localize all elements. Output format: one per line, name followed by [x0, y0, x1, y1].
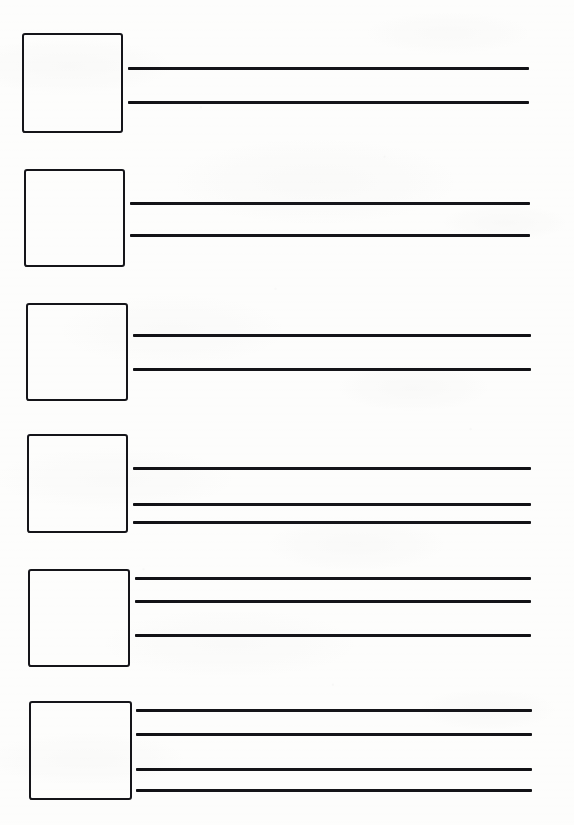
writing-line-1-2[interactable] — [128, 101, 529, 104]
answer-box-1[interactable] — [22, 33, 123, 133]
answer-box-3[interactable] — [26, 303, 128, 401]
answer-box-2[interactable] — [24, 169, 125, 267]
answer-box-4[interactable] — [27, 434, 128, 533]
writing-line-2-2[interactable] — [130, 234, 530, 237]
writing-line-3-2[interactable] — [133, 368, 531, 371]
answer-box-5[interactable] — [28, 569, 130, 667]
writing-line-6-4[interactable] — [136, 789, 532, 792]
worksheet-page — [0, 0, 574, 825]
writing-line-5-3[interactable] — [135, 634, 531, 637]
writing-line-4-2[interactable] — [133, 503, 531, 506]
answer-box-6[interactable] — [29, 701, 132, 800]
writing-line-4-3[interactable] — [133, 521, 531, 524]
writing-line-6-1[interactable] — [136, 709, 532, 712]
writing-line-5-1[interactable] — [135, 577, 531, 580]
writing-line-6-3[interactable] — [136, 768, 532, 771]
writing-line-3-1[interactable] — [133, 334, 531, 337]
writing-line-4-1[interactable] — [133, 467, 531, 470]
writing-line-1-1[interactable] — [128, 67, 529, 70]
writing-line-5-2[interactable] — [135, 600, 531, 603]
writing-line-6-2[interactable] — [136, 733, 532, 736]
writing-line-2-1[interactable] — [130, 202, 530, 205]
